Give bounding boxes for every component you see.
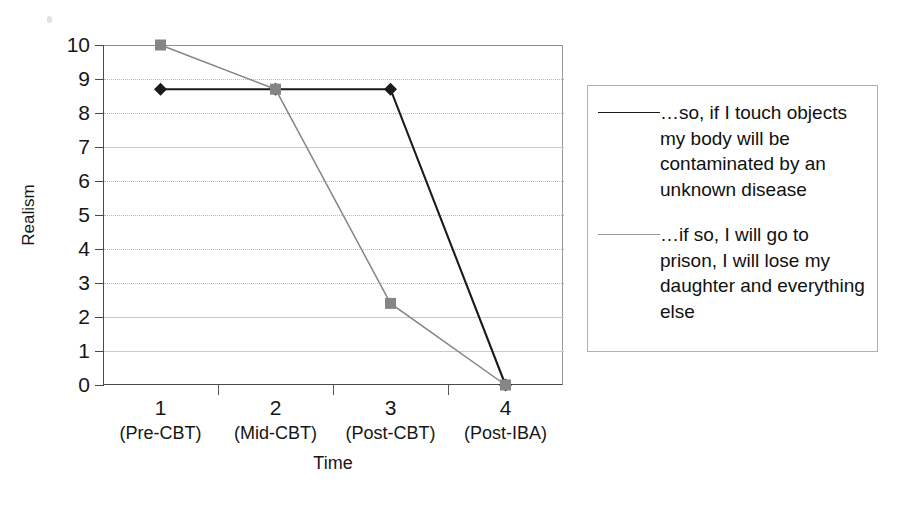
y-tick-label-8: 8 [54,102,90,123]
scan-artifact [47,16,52,23]
y-tick-3 [95,283,104,284]
y-tick-label-5: 5 [54,204,90,225]
gridline-1 [104,351,564,352]
y-tick-label-0: 0 [54,374,90,395]
gridline-7 [104,147,564,148]
x-sublabel-1: (Mid-CBT) [212,422,340,444]
legend: …so, if I touch objects my body will be … [587,85,878,352]
y-tick-label-6: 6 [54,170,90,191]
chart-figure: 012345678910 Realism 1(Pre-CBT)2(Mid-CBT… [0,0,901,507]
x-tick-label-4: 4 [451,396,561,420]
gridline-3 [104,283,564,284]
y-tick-4 [95,249,104,250]
x-sublabel-2: (Post-CBT) [327,422,455,444]
y-tick-8 [95,113,104,114]
x-sublabel-3: (Post-IBA) [442,422,570,444]
y-tick-label-3: 3 [54,272,90,293]
y-tick-7 [95,147,104,148]
x-tick-label-3: 3 [336,396,446,420]
gridline-8 [104,113,564,114]
legend-entry-series-2[interactable]: …if so, I will go to prison, I will lose… [598,222,870,324]
square-marker-icon [598,222,660,248]
legend-entry-series-1[interactable]: …so, if I touch objects my body will be … [598,100,870,202]
legend-label-series-1: …so, if I touch objects my body will be … [660,100,870,202]
y-tick-0 [95,385,104,386]
y-tick-5 [95,215,104,216]
y-tick-label-4: 4 [54,238,90,259]
y-axis-title: Realism [19,150,39,280]
gridline-2 [104,317,564,318]
x-axis-title: Time [103,453,563,474]
gridline-5 [104,215,564,216]
y-tick-label-2: 2 [54,306,90,327]
y-tick-1 [95,351,104,352]
y-tick-9 [95,79,104,80]
gridline-4 [104,249,564,250]
x-tick-label-1: 1 [106,396,216,420]
x-tick-1 [218,385,219,395]
gridline-9 [104,79,564,80]
y-tick-label-9: 9 [54,68,90,89]
gridline-6 [104,181,564,182]
y-tick-6 [95,181,104,182]
legend-label-series-2: …if so, I will go to prison, I will lose… [660,222,870,324]
x-sublabel-0: (Pre-CBT) [97,422,225,444]
y-tick-label-1: 1 [54,340,90,361]
x-tick-2 [333,385,334,395]
plot-area [103,45,563,385]
y-tick-10 [95,45,104,46]
diamond-marker-icon [598,100,660,126]
y-tick-label-10: 10 [54,34,90,55]
y-tick-2 [95,317,104,318]
x-tick-3 [448,385,449,395]
x-tick-label-2: 2 [221,396,331,420]
y-tick-label-7: 7 [54,136,90,157]
